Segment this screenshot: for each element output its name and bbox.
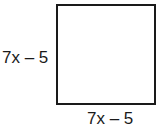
bottom-side-label: 7x – 5: [87, 110, 133, 127]
left-side-label: 7x – 5: [2, 49, 48, 66]
square-shape: [56, 4, 156, 105]
